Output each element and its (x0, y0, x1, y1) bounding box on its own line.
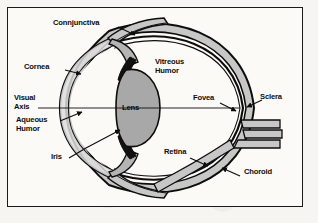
label-iris: Iris (51, 153, 62, 162)
diagram-frame: Connjunctiva Cornea Visual Axis Aqueous … (7, 7, 303, 207)
label-lens: Lens (122, 104, 139, 113)
eye-diagram-page: Connjunctiva Cornea Visual Axis Aqueous … (0, 0, 318, 223)
label-choroid: Choroid (244, 168, 272, 177)
label-conjunctiva: Connjunctiva (53, 19, 99, 28)
label-retina: Retina (164, 148, 186, 157)
leader-choroid (222, 168, 240, 176)
label-fovea: Fovea (193, 94, 214, 103)
label-sclera: Sclera (260, 93, 282, 102)
label-vitreous-humor-line2: Humor (155, 67, 179, 76)
eye-cross-section-illustration (8, 8, 304, 208)
label-cornea: Cornea (24, 63, 49, 72)
label-aqueous-humor-line2: Humor (16, 125, 40, 134)
label-visual-axis-line2: Axis (14, 103, 29, 112)
